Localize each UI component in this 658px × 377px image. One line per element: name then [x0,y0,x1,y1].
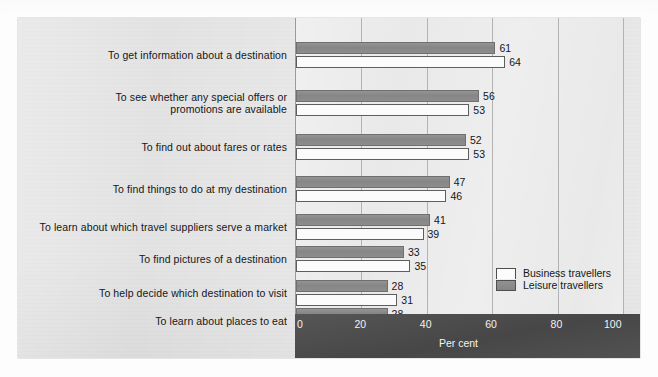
x-tick-100: 100 [604,318,622,331]
x-tick-80: 80 [551,318,563,331]
value-label-leisure-5: 33 [408,246,420,258]
category-label-line: To help decide which destination to visi… [21,287,287,300]
category-label-1: To see whether any special offers orprom… [21,91,287,116]
legend-label: Business travellers [523,267,611,279]
x-tick-0: 0 [297,318,303,331]
bar-leisure-2 [296,134,466,146]
category-label-line: To find out about fares or rates [21,141,287,154]
category-label-line: To get information about a destination [21,49,287,62]
value-label-business-3: 46 [450,190,462,202]
value-label-business-6: 31 [401,294,413,306]
value-label-leisure-4: 41 [434,214,446,226]
value-label-business-5: 35 [414,260,426,272]
value-label-leisure-0: 61 [499,42,511,54]
legend-swatch-business-icon [496,268,516,279]
category-label-line: To see whether any special offers or [21,91,287,104]
value-label-business-4: 39 [428,228,440,240]
category-label-column: To get information about a destinationTo… [18,18,295,314]
category-label-3: To find things to do at my destination [21,183,287,196]
scanned-page: To get information about a destinationTo… [0,0,658,377]
category-label-line: To learn about places to eat [21,315,287,328]
category-label-7: To learn about places to eat [21,315,287,328]
bar-business-0 [296,56,505,68]
bar-business-2 [296,148,469,160]
category-label-line: To find things to do at my destination [21,183,287,196]
legend-item-business: Business travellers [496,267,616,279]
bar-leisure-1 [296,90,479,102]
value-label-leisure-1: 56 [483,90,495,102]
category-label-line: To learn about which travel suppliers se… [21,221,287,234]
value-label-business-0: 64 [509,56,521,68]
category-label-5: To find pictures of a destination [21,253,287,266]
legend-item-leisure: Leisure travellers [496,279,616,291]
bar-business-1 [296,104,469,116]
x-axis-title: Per cent [295,337,622,349]
bar-business-5 [296,260,410,272]
legend-label: Leisure travellers [523,279,603,291]
bar-business-3 [296,190,446,202]
value-label-business-1: 53 [473,104,485,116]
category-label-2: To find out about fares or rates [21,141,287,154]
value-label-leisure-2: 52 [470,134,482,146]
bar-business-6 [296,294,397,306]
bar-leisure-6 [296,280,388,292]
chart-legend: Business travellersLeisure travellers [496,267,616,291]
category-label-6: To help decide which destination to visi… [21,287,287,300]
value-label-business-2: 53 [473,148,485,160]
x-tick-20: 20 [354,318,366,331]
bar-business-4 [296,228,424,240]
category-label-4: To learn about which travel suppliers se… [21,221,287,234]
value-label-leisure-6: 28 [392,280,404,292]
category-label-line: promotions are available [21,103,287,116]
bar-leisure-0 [296,42,495,54]
gridline-100 [623,18,624,314]
x-axis-band: Per cent 020406080100 [295,314,640,358]
bar-leisure-3 [296,176,450,188]
x-tick-60: 60 [485,318,497,331]
bar-leisure-5 [296,246,404,258]
category-label-0: To get information about a destination [21,49,287,62]
legend-swatch-leisure-icon [496,280,516,291]
bar-leisure-4 [296,214,430,226]
category-label-line: To find pictures of a destination [21,253,287,266]
x-tick-40: 40 [420,318,432,331]
value-label-leisure-3: 47 [454,176,466,188]
